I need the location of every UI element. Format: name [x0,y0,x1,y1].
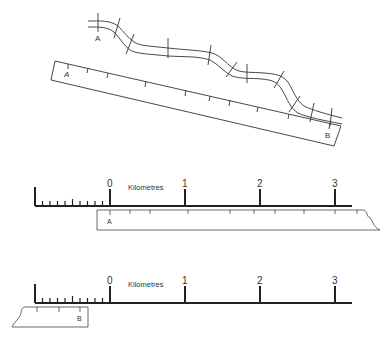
paper-strip-middle [97,210,380,230]
paper-strip-top [51,61,341,146]
paper-strip-ticks [68,64,330,129]
middle-panel [35,187,380,230]
middle-tick-2: 2 [257,178,263,189]
scale-bar-bottom [35,284,352,303]
middle-tick-3: 3 [332,178,338,189]
route-ticks [98,13,332,126]
bottom-strip-label: B [77,315,82,322]
strip-start-label: A [63,70,69,79]
strip-end-label: B [325,131,330,140]
bottom-unit-label: Kilometres [128,280,164,289]
bottom-tick-0: 0 [107,275,113,286]
route-start-label: A [95,34,101,43]
bottom-tick-2: 2 [257,275,263,286]
bottom-tick-1: 1 [182,275,188,286]
distance-measurement-diagram: A A B [0,0,391,340]
middle-unit-label: Kilometres [128,183,164,192]
middle-tick-1: 1 [182,178,188,189]
middle-tick-0: 0 [107,178,113,189]
middle-strip-label: A [107,218,112,225]
scale-bar-middle [35,187,352,206]
top-panel [51,13,342,146]
route-upper-edge [88,21,342,118]
bottom-panel [12,284,352,327]
route-lower-edge [88,27,342,124]
bottom-tick-3: 3 [332,275,338,286]
